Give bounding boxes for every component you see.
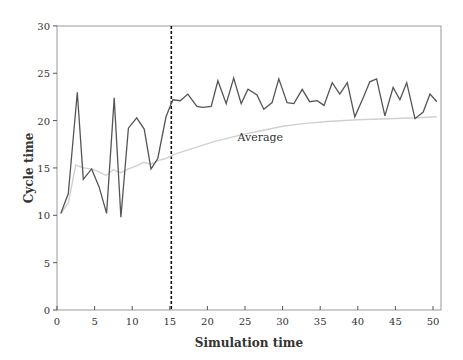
- x-tick-label: 10: [126, 316, 139, 327]
- plot-frame: [57, 26, 441, 310]
- cycle-time-chart: 051015202530 05101520253035404550 Averag…: [0, 0, 463, 360]
- x-tick-label: 0: [54, 316, 60, 327]
- y-tick-label: 25: [37, 68, 50, 79]
- y-tick-label: 5: [44, 258, 50, 269]
- y-tick-label: 15: [37, 163, 50, 174]
- x-tick-label: 40: [351, 316, 364, 327]
- y-tick-label: 10: [37, 210, 50, 221]
- y-tick-label: 20: [37, 116, 50, 127]
- y-axis-label: Cycle time: [22, 132, 36, 203]
- x-tick-label: 5: [91, 316, 97, 327]
- x-tick-label: 50: [427, 316, 440, 327]
- x-tick-label: 20: [201, 316, 214, 327]
- y-tick-label: 30: [37, 21, 50, 32]
- x-tick-label: 45: [389, 316, 402, 327]
- x-tick-label: 30: [276, 316, 289, 327]
- x-tick-label: 35: [314, 316, 327, 327]
- x-tick-label: 25: [239, 316, 252, 327]
- cycle-time-series-line: [61, 78, 437, 217]
- average-label: Average: [236, 131, 283, 144]
- y-tick-label: 0: [44, 305, 50, 316]
- x-tick-label: 15: [163, 316, 176, 327]
- y-axis: 051015202530: [37, 21, 57, 316]
- x-axis: 05101520253035404550: [54, 306, 440, 327]
- x-axis-label: Simulation time: [195, 336, 304, 350]
